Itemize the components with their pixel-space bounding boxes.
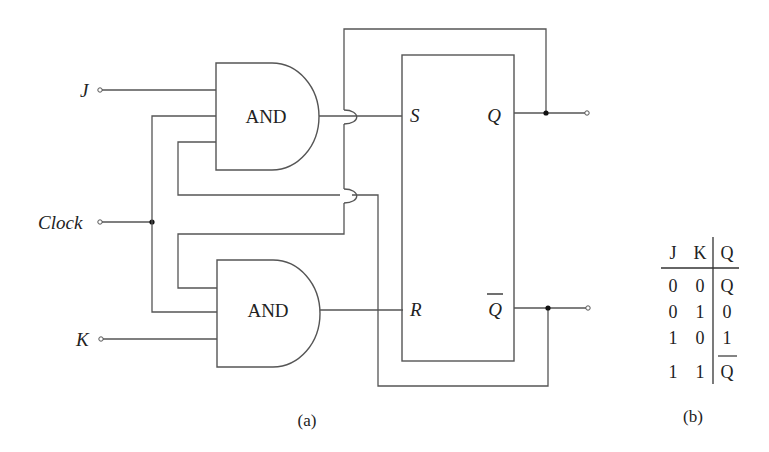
caption-a: (a) bbox=[298, 411, 317, 430]
header-k: K bbox=[694, 243, 707, 263]
q-terminal-icon bbox=[585, 111, 589, 115]
clock-distribution-wire bbox=[152, 116, 217, 312]
table-row: 0 0 Q bbox=[669, 276, 734, 296]
r-input-label: R bbox=[409, 299, 422, 320]
q-feedback-top-wire bbox=[344, 29, 546, 113]
upper-gate-output-wire bbox=[319, 110, 402, 124]
qbar-junction-dot bbox=[545, 305, 550, 310]
k-input-label: K bbox=[75, 329, 90, 350]
cell-k: 1 bbox=[696, 302, 705, 322]
cell-k: 0 bbox=[696, 328, 705, 348]
crossover-hump-icon bbox=[344, 189, 357, 203]
truth-table: J K Q 0 0 Q 0 1 0 1 0 1 1 1 Q bbox=[661, 237, 739, 384]
qbar-output-label: Q bbox=[488, 299, 502, 320]
table-row: 0 1 0 bbox=[669, 302, 732, 322]
header-q: Q bbox=[721, 243, 734, 263]
cell-k: 0 bbox=[696, 276, 705, 296]
q-output-label: Q bbox=[487, 105, 501, 126]
cell-j: 0 bbox=[669, 276, 678, 296]
k-terminal-icon bbox=[99, 337, 103, 341]
qbar-terminal-icon bbox=[586, 306, 590, 310]
caption-b: (b) bbox=[683, 407, 703, 426]
cell-q: 0 bbox=[723, 302, 732, 322]
qbar-feedback-wire-right bbox=[352, 195, 548, 386]
cell-j: 1 bbox=[669, 362, 678, 382]
clock-input-label: Clock bbox=[38, 212, 83, 233]
cell-q: Q bbox=[721, 362, 734, 382]
q-junction-dot bbox=[543, 110, 548, 115]
cell-q: 1 bbox=[723, 328, 732, 348]
header-j: J bbox=[669, 243, 676, 263]
table-row: 1 1 Q bbox=[669, 356, 738, 382]
table-row: 1 0 1 bbox=[669, 328, 732, 348]
j-input-label: J bbox=[80, 80, 90, 101]
cell-j: 1 bbox=[669, 328, 678, 348]
cell-q: Q bbox=[721, 276, 734, 296]
upper-and-gate-label: AND bbox=[245, 106, 286, 127]
j-terminal-icon bbox=[98, 88, 102, 92]
s-input-label: S bbox=[410, 105, 420, 126]
cell-j: 0 bbox=[669, 302, 678, 322]
clock-terminal-icon bbox=[98, 220, 102, 224]
cell-k: 1 bbox=[696, 362, 705, 382]
lower-and-gate-label: AND bbox=[247, 300, 288, 321]
jk-flip-flop-diagram: J Clock K AND AND S R Q Q (a) J K Q bbox=[0, 0, 769, 452]
